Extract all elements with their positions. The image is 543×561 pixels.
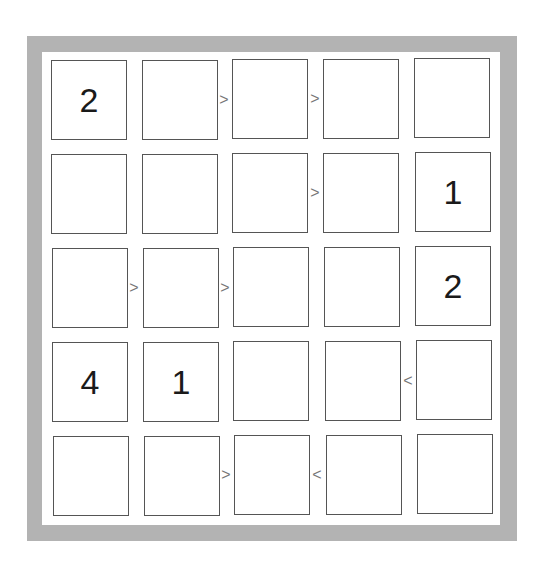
greater-than-sign-r1-c2c3: > [309,185,321,201]
cell-r4-c2[interactable] [234,435,310,515]
cell-r2-c2[interactable] [233,247,309,327]
cell-r0-c1[interactable] [142,60,218,140]
cell-r1-c4[interactable]: 1 [415,152,491,232]
greater-than-sign-r2-c1c2: > [219,280,231,296]
cell-r1-c0[interactable] [51,154,127,234]
less-than-sign-r3-c3c4: < [402,373,414,389]
cell-r4-c3[interactable] [326,435,402,515]
greater-than-sign-r0-c1c2: > [218,92,230,108]
cell-r3-c1[interactable]: 1 [143,342,219,422]
cell-r2-c0[interactable] [52,248,128,328]
cell-r1-c2[interactable] [232,153,308,233]
cell-r3-c2[interactable] [233,341,309,421]
cell-r4-c1[interactable] [144,436,220,516]
cell-r4-c4[interactable] [417,434,493,514]
greater-than-sign-r0-c2c3: > [309,91,321,107]
cell-r2-c3[interactable] [324,247,400,327]
cell-r1-c1[interactable] [142,154,218,234]
cell-r3-c4[interactable] [416,340,492,420]
greater-than-sign-r4-c1c2: > [220,467,232,483]
cell-r2-c1[interactable] [143,248,219,328]
cell-r4-c0[interactable] [53,436,129,516]
less-than-sign-r4-c2c3: < [311,467,323,483]
cell-r1-c3[interactable] [323,153,399,233]
cell-r0-c0[interactable]: 2 [51,60,127,140]
cell-r3-c3[interactable] [325,341,401,421]
cell-r0-c2[interactable] [232,59,308,139]
puzzle-board: 2 1 2 4 1 > > > > > < > < [42,52,500,525]
cell-r0-c4[interactable] [414,58,490,138]
cell-r0-c3[interactable] [323,59,399,139]
cell-r2-c4[interactable]: 2 [415,246,491,326]
puzzle-frame: 2 1 2 4 1 > > > > > < > < [27,36,517,541]
cell-r3-c0[interactable]: 4 [52,342,128,422]
greater-than-sign-r2-c0c1: > [128,280,140,296]
